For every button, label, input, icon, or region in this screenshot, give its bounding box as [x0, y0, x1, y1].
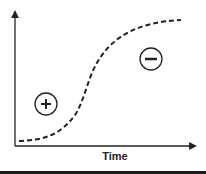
minus-circle-icon	[140, 48, 162, 70]
plus-circle-icon	[35, 93, 57, 115]
x-axis-label: Time	[95, 150, 135, 162]
diagram-canvas	[0, 0, 206, 174]
sigmoid-diagram: Time	[0, 0, 206, 174]
sigmoid-curve	[19, 20, 181, 141]
bottom-divider	[0, 171, 206, 174]
